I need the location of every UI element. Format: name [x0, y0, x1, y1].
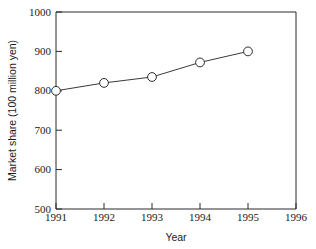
x-axis-title: Year — [165, 231, 187, 243]
data-point-1992 — [100, 79, 109, 88]
series-line-market-share — [56, 51, 248, 90]
data-point-1994 — [196, 58, 205, 67]
x-tick-labels: 1991 1992 1993 1994 1995 1996 — [45, 211, 308, 223]
y-tick-label-1000: 1000 — [29, 6, 52, 18]
y-tick-label-800: 800 — [35, 84, 52, 96]
x-tick-label-1992: 1992 — [93, 211, 115, 223]
y-tick-labels: 500 600 700 800 900 1000 — [29, 6, 52, 215]
x-tick-label-1996: 1996 — [285, 211, 308, 223]
x-tick-label-1995: 1995 — [237, 211, 260, 223]
y-tick-label-900: 900 — [35, 45, 52, 57]
line-chart-canvas: 500 600 700 800 900 1000 1991 1992 1993 … — [0, 0, 316, 249]
x-tick-label-1993: 1993 — [141, 211, 164, 223]
x-tick-label-1994: 1994 — [189, 211, 212, 223]
x-tick-label-1991: 1991 — [45, 211, 67, 223]
x-tick-marks — [56, 203, 296, 209]
data-point-1995 — [244, 47, 253, 56]
chart-figure: 500 600 700 800 900 1000 1991 1992 1993 … — [0, 0, 316, 249]
plot-frame — [56, 12, 296, 209]
y-tick-marks — [56, 12, 62, 209]
y-tick-label-600: 600 — [35, 163, 52, 175]
data-point-1991 — [52, 86, 61, 95]
y-tick-label-700: 700 — [35, 124, 52, 136]
series-markers — [52, 47, 253, 95]
y-axis-title: Market share (100 million yen) — [6, 40, 18, 181]
data-point-1993 — [148, 73, 157, 82]
